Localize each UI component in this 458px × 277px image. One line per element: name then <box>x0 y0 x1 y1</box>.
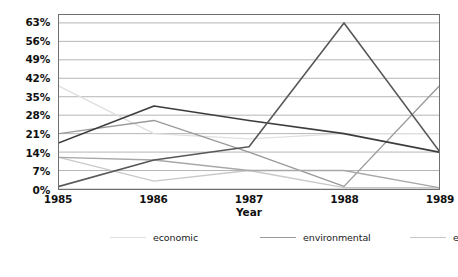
y-axis-tick-label: 56% <box>25 35 50 47</box>
legend-label: ekonomic-political <box>453 232 458 243</box>
y-axis-tick-label: 28% <box>25 109 50 121</box>
y-axis-tick-label: 21% <box>25 128 50 140</box>
legend-label: environmental <box>303 232 371 243</box>
legend-item[interactable]: ekonomic-political <box>410 231 458 244</box>
chart-legend: economicenvironmentalekonomic-politicalp… <box>110 231 410 244</box>
legend-item[interactable]: economic <box>110 231 260 244</box>
y-axis: 0%7%14%21%28%35%42%49%56%63% <box>0 14 54 190</box>
series-line-technological <box>59 23 439 186</box>
series-line-economic <box>59 86 439 139</box>
line-chart: 0%7%14%21%28%35%42%49%56%63% 19851986198… <box>0 0 458 277</box>
y-axis-tick-label: 35% <box>25 91 50 103</box>
x-axis-tick-label: 1985 <box>44 193 72 205</box>
x-axis-title: Year <box>58 206 440 218</box>
y-axis-tick-label: 14% <box>25 147 50 159</box>
x-axis-tick-label: 1988 <box>330 193 358 205</box>
x-axis-tick-label: 1986 <box>139 193 167 205</box>
y-axis-tick-label: 42% <box>25 72 50 84</box>
y-axis-tick-label: 49% <box>25 53 50 65</box>
x-axis-tick-label: 1989 <box>426 193 454 205</box>
y-axis-tick-label: 63% <box>25 16 50 28</box>
legend-item[interactable]: environmental <box>260 231 410 244</box>
series-line-ekonomic-political <box>59 157 439 187</box>
x-axis-tick-label: 1987 <box>235 193 263 205</box>
legend-swatch-line-icon <box>410 237 446 238</box>
plot-area <box>58 14 440 190</box>
series-line-political-administrative <box>59 157 439 187</box>
series-line-lifeworld <box>59 106 439 152</box>
legend-swatch-line-icon <box>110 237 146 238</box>
y-axis-tick-label: 7% <box>33 165 50 177</box>
legend-swatch-line-icon <box>260 237 296 238</box>
series-lines <box>59 15 439 189</box>
legend-label: economic <box>153 232 198 243</box>
